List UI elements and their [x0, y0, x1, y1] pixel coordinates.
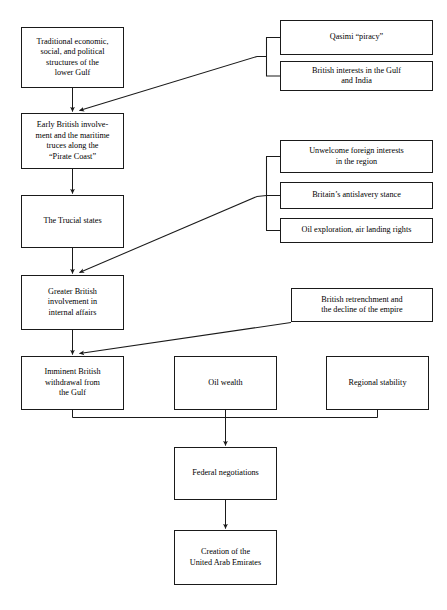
node-label: Oil exploration, air landing rights — [302, 225, 412, 236]
node-label: Imminent British withdrawal from the Gul… — [44, 367, 100, 399]
edge-interests-bracket — [267, 157, 281, 231]
node-british-retrenchment[interactable]: British retrenchment and the decline of … — [291, 288, 433, 322]
node-traditional-structures[interactable]: Traditional economic, social, and politi… — [21, 27, 124, 88]
node-label: British retrenchment and the decline of … — [321, 295, 402, 316]
node-label: Federal negotiations — [192, 468, 259, 479]
edge-qasimi-bracket — [267, 38, 281, 77]
node-greater-british-involvement[interactable]: Greater British involvement in internal … — [21, 275, 124, 330]
node-british-interests[interactable]: British interests in the Gulf and India — [280, 61, 433, 91]
node-label: Qasimi “piracy” — [330, 32, 383, 43]
node-trucial-states[interactable]: The Trucial states — [21, 195, 124, 248]
node-oil-wealth[interactable]: Oil wealth — [174, 356, 277, 410]
node-label: Britain’s antislavery stance — [312, 190, 401, 201]
node-britain-antislavery[interactable]: Britain’s antislavery stance — [280, 182, 433, 209]
node-unwelcome-foreign-interests[interactable]: Unwelcome foreign interests in the regio… — [280, 140, 433, 173]
node-qasimi-piracy[interactable]: Qasimi “piracy” — [280, 20, 433, 55]
node-regional-stability[interactable]: Regional stability — [326, 356, 429, 410]
node-creation-uae[interactable]: Creation of the United Arab Emirates — [174, 530, 277, 585]
edge-interests-stem — [257, 196, 267, 197]
flowchart-canvas: Traditional economic, social, and politi… — [0, 0, 447, 610]
node-label: Oil wealth — [208, 378, 242, 389]
node-label: Unwelcome foreign interests in the regio… — [309, 146, 404, 167]
node-early-british-involvement[interactable]: Early British involve- ment and the mari… — [21, 113, 124, 169]
node-label: Early British involve- ment and the mari… — [36, 120, 110, 162]
node-label: Regional stability — [349, 378, 407, 389]
node-federal-negotiations[interactable]: Federal negotiations — [174, 447, 277, 500]
node-label: Traditional economic, social, and politi… — [36, 37, 108, 79]
node-label: British interests in the Gulf and India — [312, 66, 401, 87]
node-label: Creation of the United Arab Emirates — [190, 547, 261, 568]
node-label: The Trucial states — [43, 216, 101, 227]
node-oil-exploration[interactable]: Oil exploration, air landing rights — [280, 218, 433, 243]
node-label: Greater British involvement in internal … — [48, 287, 97, 319]
node-imminent-withdrawal[interactable]: Imminent British withdrawal from the Gul… — [21, 356, 124, 410]
